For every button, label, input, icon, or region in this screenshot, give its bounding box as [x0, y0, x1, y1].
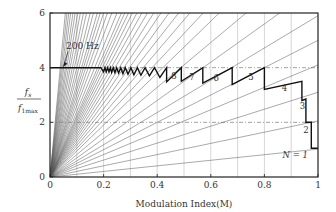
harmonic-ray: [50, 13, 169, 177]
harmonic-ray: [50, 13, 121, 177]
y-tick-label: 4: [39, 63, 45, 73]
y-tick-label: 2: [39, 117, 45, 127]
region-label: 8: [171, 71, 176, 81]
region-label: 7: [189, 72, 194, 82]
harmonic-ray: [50, 13, 93, 177]
harmonic-ray: [50, 13, 128, 177]
annotation-text: 200 Hz: [66, 41, 99, 51]
chart-svg: 00.20.40.60.810246 8765432N = 1 200 Hz M…: [0, 0, 336, 212]
x-tick-label: 0.8: [257, 180, 272, 190]
chart-container: 00.20.40.60.810246 8765432N = 1 200 Hz M…: [0, 0, 336, 212]
y-axis-label: fs f1max: [17, 87, 41, 114]
region-label: 4: [282, 83, 287, 93]
harmonic-ray: [50, 13, 80, 177]
harmonic-ray: [50, 13, 125, 177]
x-axis-label: Modulation Index(M): [136, 199, 233, 209]
harmonic-ray: [50, 13, 246, 177]
harmonic-ray: [50, 13, 219, 177]
x-tick-label: 0: [47, 180, 53, 190]
x-tick-label: 0.6: [204, 180, 219, 190]
y-tick-label: 6: [39, 8, 45, 18]
harmonic-ray: [50, 13, 203, 177]
region-label: 5: [248, 72, 253, 82]
region-label: N = 1: [282, 150, 308, 160]
region-label: 6: [213, 73, 218, 83]
region-label: 3: [300, 101, 305, 111]
harmonic-ray: [50, 13, 154, 177]
region-label: 2: [303, 125, 308, 135]
x-tick-label: 0.2: [96, 180, 110, 190]
harmonic-ray: [50, 13, 117, 177]
y-tick-label: 0: [39, 172, 45, 182]
x-tick-label: 1: [315, 180, 321, 190]
y-label-numerator: fs: [24, 87, 31, 98]
x-tick-label: 0.4: [150, 180, 165, 190]
y-label-denominator: f1max: [17, 103, 38, 114]
harmonic-ray: [50, 13, 280, 177]
